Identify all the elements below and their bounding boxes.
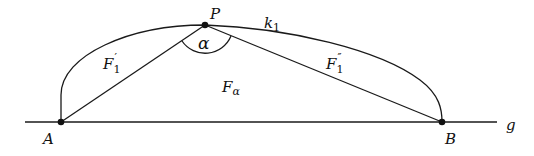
label-F-alpha: Fα bbox=[221, 78, 240, 98]
label-P: P bbox=[209, 5, 221, 23]
segment-PA bbox=[61, 25, 205, 122]
segment-PB bbox=[205, 25, 442, 122]
label-k1: k1 bbox=[264, 14, 280, 34]
point-A bbox=[58, 119, 65, 126]
point-P bbox=[202, 22, 209, 29]
label-B: B bbox=[444, 130, 456, 148]
label-A: A bbox=[41, 130, 54, 148]
label-F1-double-prime: F1″ bbox=[325, 51, 343, 76]
label-F1-prime: F1′ bbox=[102, 51, 120, 76]
label-g: g bbox=[506, 116, 516, 134]
diagram: A B P g k1 α Fα F1′ F1″ bbox=[0, 0, 534, 156]
point-B bbox=[439, 119, 446, 126]
label-alpha: α bbox=[198, 33, 210, 53]
